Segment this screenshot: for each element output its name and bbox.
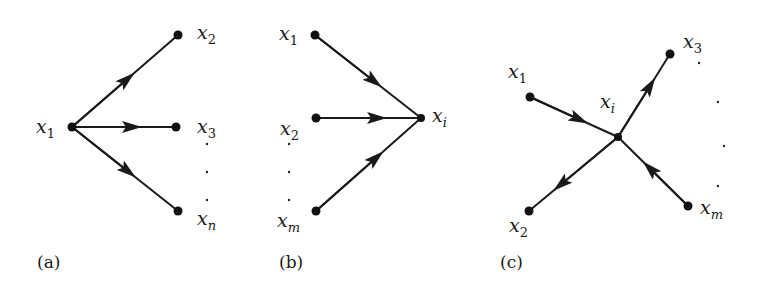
panel-c: x1 xi x3 x2 xm (c): [500, 30, 725, 272]
caption-b: (b): [279, 252, 303, 272]
edge-xi-x2: [529, 137, 618, 211]
node-a-x3: [172, 123, 181, 132]
label-c-x3: x3: [683, 30, 702, 56]
panel-b: x1 x2 xm xi (b): [277, 22, 447, 272]
node-c-x2: [525, 207, 534, 216]
edge-x1-xn: [72, 127, 178, 211]
node-a-xn: [174, 207, 183, 216]
edge-xi-x3: [618, 54, 670, 137]
node-b-x1: [311, 31, 320, 40]
caption-c: (c): [500, 252, 523, 272]
label-a-x3: x3: [197, 115, 216, 141]
label-b-x1: x1: [279, 22, 298, 48]
label-b-x2: x2: [280, 117, 299, 143]
node-b-xm: [312, 207, 321, 216]
ellipsis-b: [288, 143, 290, 201]
edge-xm-xi: [618, 137, 688, 206]
node-c-x3: [666, 50, 675, 59]
label-a-x2: x2: [197, 21, 216, 47]
ellipsis-a: [206, 143, 208, 201]
edge-x1-xi: [315, 35, 421, 118]
node-b-xi: [417, 114, 425, 122]
label-c-xm: xm: [700, 196, 723, 222]
label-c-xi: xi: [600, 90, 615, 116]
label-b-xm: xm: [277, 209, 300, 235]
node-a-x1: [68, 123, 77, 132]
node-c-xm: [684, 202, 693, 211]
label-a-x1: x1: [36, 115, 55, 141]
directed-graph-figure: x1 x2 x3 xn (a) x1 x2 xm xi: [0, 0, 760, 285]
label-b-xi: xi: [432, 104, 447, 130]
node-c-xi: [614, 133, 622, 141]
label-a-xn: xn: [197, 207, 216, 233]
edge-x1-x2: [72, 35, 178, 127]
label-c-x2: x2: [509, 214, 528, 240]
node-a-x2: [174, 31, 183, 40]
node-c-x1: [526, 93, 535, 102]
caption-a: (a): [37, 252, 60, 272]
panel-a: x1 x2 x3 xn (a): [36, 21, 216, 272]
label-c-x1: x1: [508, 60, 527, 86]
ellipsis-c: [698, 62, 725, 187]
edge-xm-xi: [316, 118, 421, 211]
node-b-x2: [312, 114, 321, 123]
